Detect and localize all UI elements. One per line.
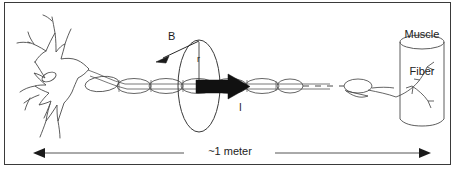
magnetic-field-direction-arrow — [156, 41, 199, 63]
muscle-fiber-label-line2: Fiber — [396, 65, 448, 77]
muscle-fiber-label-line1: Muscle — [396, 28, 448, 40]
current-direction-arrow — [196, 74, 250, 99]
scale-label: ~1 meter — [185, 145, 275, 157]
neuron-cell-body — [17, 15, 89, 138]
nucleus — [40, 70, 57, 84]
magnetic-field-label: B — [168, 30, 175, 42]
muscle-fiber-label: Muscle Fiber — [396, 3, 448, 102]
radius-label: r — [197, 54, 200, 64]
current-label: I — [239, 102, 242, 113]
figure-root: Muscle Fiber B r I ~1 meter — [0, 0, 457, 170]
